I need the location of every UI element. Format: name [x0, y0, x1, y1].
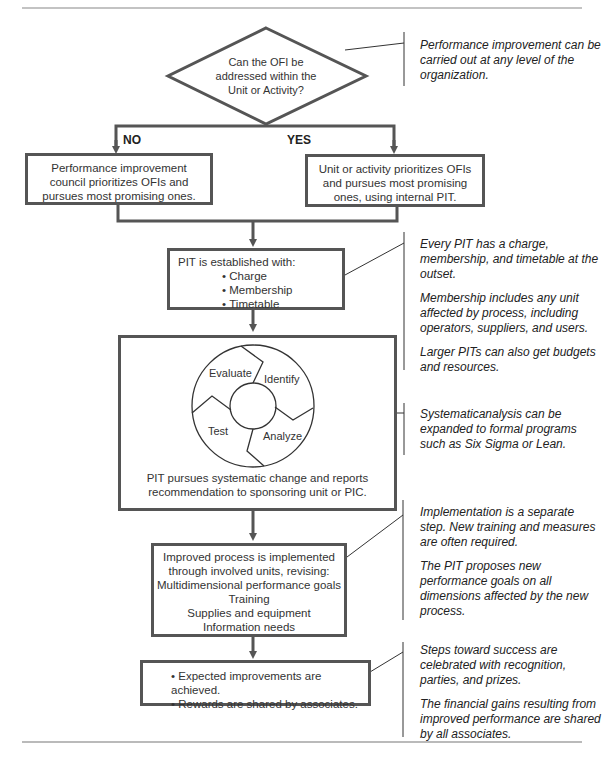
yes-label: YES	[287, 133, 311, 147]
result-item-improvements: Expected improvements are achieved.	[171, 669, 360, 697]
no-branch-box: Performance improvement council prioriti…	[25, 153, 213, 205]
pit-item-timetable: Timetable	[222, 297, 334, 311]
pit-established-box: PIT is established with: Charge Membersh…	[167, 248, 345, 310]
implement-line-6: Information needs	[156, 620, 342, 634]
no-branch-text: Performance improvement council prioriti…	[42, 162, 195, 202]
note-membership-text: Membership includes any unit affected by…	[420, 291, 602, 336]
note-budgets-text: Larger PITs can also get budgets and res…	[420, 345, 602, 375]
implementation-box: Improved process is implemented through …	[151, 543, 347, 637]
cycle-stage-analyze: Analyze	[263, 430, 302, 442]
note-success-text: Steps toward success are celebrated with…	[420, 643, 602, 688]
note-pit-charge: Every PIT has a charge, membership, and …	[420, 237, 602, 384]
yes-branch-text: Unit or activity prioritizes OFIs and pu…	[319, 163, 472, 203]
note-financial-gains-text: The financial gains resulting from impro…	[420, 697, 602, 742]
implement-line-3: Multidimensional performance goals	[156, 578, 342, 592]
pit-item-charge: Charge	[222, 269, 334, 283]
pit-established-title: PIT is established with:	[178, 255, 334, 269]
note-implementation-text: Implementation is a separate step. New t…	[420, 505, 602, 550]
note-implementation: Implementation is a separate step. New t…	[420, 505, 602, 628]
note-any-level: Performance improvement can be carried o…	[420, 38, 602, 92]
note-systematic-analysis-text: Systematicanalysis can be expanded to fo…	[420, 407, 602, 452]
yes-branch-box: Unit or activity prioritizes OFIs and pu…	[305, 154, 485, 207]
implement-line-1: Improved process is implemented	[156, 550, 342, 564]
cycle-stage-evaluate: Evaluate	[209, 367, 252, 379]
results-box: Expected improvements are achieved. Rewa…	[140, 660, 371, 706]
note-any-level-text: Performance improvement can be carried o…	[420, 38, 602, 83]
implement-line-4: Training	[156, 592, 342, 606]
implement-line-2: through involved units, revising:	[156, 564, 342, 578]
note-pit-charge-text: Every PIT has a charge, membership, and …	[420, 237, 602, 282]
pit-item-membership: Membership	[222, 283, 334, 297]
no-label: NO	[123, 133, 141, 147]
cycle-caption: PIT pursues systematic change and report…	[135, 471, 380, 499]
note-goals-text: The PIT proposes new performance goals o…	[420, 559, 602, 619]
note-success: Steps toward success are celebrated with…	[420, 643, 602, 751]
result-item-rewards: Rewards are shared by associates.	[171, 697, 360, 711]
note-systematic-analysis: Systematicanalysis can be expanded to fo…	[420, 407, 602, 461]
cycle-stage-identify: Identify	[264, 373, 299, 385]
implement-line-5: Supplies and equipment	[156, 606, 342, 620]
decision-question: Can the OFI be addressed within the Unit…	[206, 55, 326, 97]
cycle-stage-test: Test	[208, 425, 228, 437]
